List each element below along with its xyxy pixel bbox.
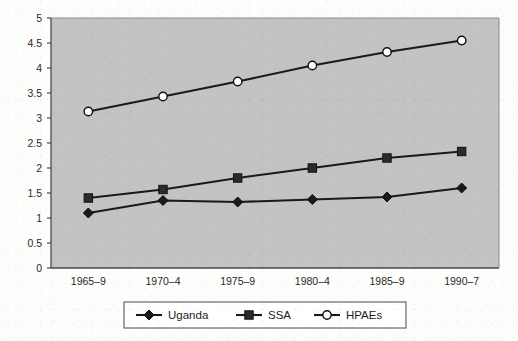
y-axis-tick-label: 4 [36, 62, 42, 74]
y-axis-tick-label: 2.5 [27, 137, 42, 149]
legend-label: HPAEs [346, 309, 382, 321]
x-axis-tick-label: 1985–9 [369, 275, 404, 287]
x-axis-tick-label: 1980–4 [295, 275, 330, 287]
data-point [159, 92, 167, 100]
legend-label: SSA [268, 309, 291, 321]
y-axis-tick-label: 3.5 [27, 87, 42, 99]
legend-marker [245, 311, 253, 319]
y-axis-tick-label: 1.5 [27, 187, 42, 199]
x-axis-tick-label: 1990–7 [444, 275, 479, 287]
data-point [84, 107, 92, 115]
x-axis-tick-label: 1970–4 [145, 275, 180, 287]
y-axis-tick-label: 4.5 [27, 37, 42, 49]
data-point [457, 36, 465, 44]
data-point [84, 194, 92, 202]
data-point [159, 185, 167, 193]
chart-legend: UgandaSSAHPAEs [124, 302, 406, 328]
x-axis-tick-label: 1965–9 [71, 275, 106, 287]
y-axis-tick-label: 0.5 [27, 237, 42, 249]
line-chart: 00.511.522.533.544.551965–91970–41975–91… [0, 0, 518, 341]
y-axis-tick-label: 0 [36, 262, 42, 274]
legend-label: Uganda [168, 309, 209, 321]
x-axis-tick-label: 1975–9 [220, 275, 255, 287]
y-axis-tick-label: 2 [36, 162, 42, 174]
y-axis-tick-label: 3 [36, 112, 42, 124]
data-point [233, 77, 241, 85]
data-point [308, 61, 316, 69]
data-point [308, 164, 316, 172]
data-point [383, 154, 391, 162]
data-point [457, 147, 465, 155]
y-axis-tick-label: 1 [36, 212, 42, 224]
data-point [383, 48, 391, 56]
plot-area [51, 18, 499, 268]
y-axis-tick-label: 5 [36, 12, 42, 24]
chart-page: 00.511.522.533.544.551965–91970–41975–91… [0, 0, 518, 341]
legend-marker [323, 311, 331, 319]
data-point [233, 174, 241, 182]
